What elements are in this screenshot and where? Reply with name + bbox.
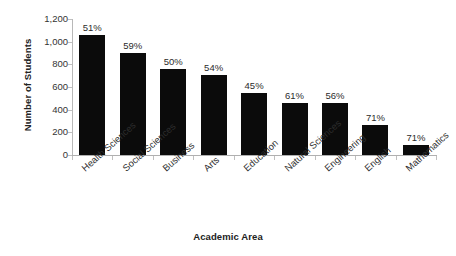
bar [201, 75, 227, 155]
y-axis-tick-label-text: 1,200 [32, 14, 68, 24]
x-axis-title: Academic Area [0, 231, 456, 242]
x-axis-tick-mark [112, 156, 113, 160]
x-axis-tick-mark [193, 156, 194, 160]
y-axis-tick-labels: 02004006008001,0001,200 [30, 0, 68, 256]
y-axis-tick-label: 1,200 [30, 14, 68, 24]
x-axis-tick-mark [396, 156, 397, 160]
bar [79, 35, 105, 155]
y-axis-tick-label: 800 [30, 59, 68, 69]
bar-value-label: 59% [111, 40, 155, 51]
bar-value-label: 50% [151, 56, 195, 67]
y-axis-tick-mark [68, 87, 72, 88]
y-axis-tick-label: 600 [30, 82, 68, 92]
y-axis-tick-mark [68, 42, 72, 43]
bar-value-label: 71% [353, 112, 397, 123]
bar [160, 69, 186, 155]
y-axis-tick-label-text: 1,000 [32, 37, 68, 47]
bar-value-label: 54% [192, 62, 236, 73]
x-axis-tick-mark [274, 156, 275, 160]
y-axis-tick-label-text: 0 [32, 150, 68, 160]
y-axis-tick-label: 1,000 [30, 37, 68, 47]
bar-value-label: 61% [273, 90, 317, 101]
x-axis-tick-mark [72, 156, 73, 160]
y-axis-tick-label-text: 400 [32, 105, 68, 115]
bar-value-label: 51% [70, 22, 114, 33]
bar-chart: Number of Students 02004006008001,0001,2… [0, 0, 456, 256]
y-axis-tick-label-text: 200 [32, 127, 68, 137]
x-axis-category-label: Arts [201, 154, 221, 173]
x-axis-tick-mark [315, 156, 316, 160]
bar-value-label: 56% [313, 90, 357, 101]
x-axis-tick-mark [153, 156, 154, 160]
y-axis-tick-label: 0 [30, 150, 68, 160]
bar-value-label: 45% [232, 80, 276, 91]
y-axis-tick-mark [68, 64, 72, 65]
x-axis-tick-mark [436, 156, 437, 160]
y-axis-tick-mark [68, 19, 72, 20]
y-axis-tick-label-text: 800 [32, 59, 68, 69]
y-axis-line [72, 19, 73, 155]
x-axis-tick-mark [355, 156, 356, 160]
y-axis-tick-mark [68, 110, 72, 111]
y-axis-tick-mark [68, 132, 72, 133]
y-axis-tick-label: 400 [30, 105, 68, 115]
y-axis-tick-label: 200 [30, 127, 68, 137]
y-axis-tick-label-text: 600 [32, 82, 68, 92]
x-axis-tick-mark [234, 156, 235, 160]
